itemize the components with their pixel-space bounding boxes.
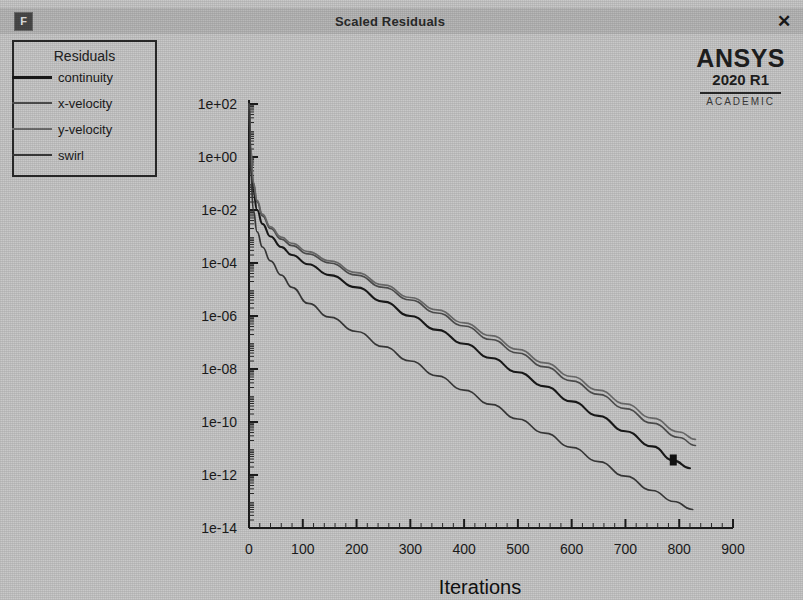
series-line-x-velocity: [249, 104, 695, 446]
continuity-end-marker: [670, 454, 677, 465]
y-tick-label: 1e-04: [201, 255, 237, 271]
x-tick-label: 700: [614, 541, 638, 557]
x-axis-ticks: [249, 519, 733, 528]
series-line-continuity: [249, 104, 690, 468]
y-tick-label: 1e-08: [201, 361, 237, 377]
x-tick-label: 200: [345, 541, 369, 557]
close-icon[interactable]: ✕: [767, 8, 801, 34]
y-tick-label: 1e+02: [198, 96, 238, 112]
x-tick-label: 800: [668, 541, 692, 557]
scaled-residuals-window: F Scaled Residuals ✕ Residuals continuit…: [0, 0, 803, 600]
x-tick-label: 300: [399, 541, 423, 557]
x-tick-labels: 0100200300400500600700800900: [245, 541, 745, 557]
y-tick-label: 1e-12: [201, 467, 237, 483]
x-tick-label: 100: [291, 541, 315, 557]
y-tick-label: 1e-02: [201, 202, 237, 218]
y-tick-label: 1e+00: [198, 149, 238, 165]
x-tick-label: 400: [452, 541, 476, 557]
window-title: Scaled Residuals: [13, 14, 767, 29]
x-tick-label: 600: [560, 541, 584, 557]
y-tick-labels: 1e+021e+001e-021e-041e-061e-081e-101e-12…: [198, 96, 238, 536]
y-tick-label: 1e-10: [201, 414, 237, 430]
x-tick-label: 900: [721, 541, 745, 557]
y-tick-label: 1e-14: [201, 520, 237, 536]
y-tick-label: 1e-06: [201, 308, 237, 324]
series-line-y-velocity: [249, 104, 695, 439]
series-line-swirl: [249, 104, 693, 510]
x-axis-title: Iterations: [439, 576, 521, 598]
plot-canvas: Residuals continuityx-velocityy-velocity…: [0, 34, 803, 600]
x-tick-label: 500: [506, 541, 530, 557]
window-titlebar: F Scaled Residuals ✕: [0, 8, 803, 34]
residuals-chart: 0100200300400500600700800900 1e+021e+001…: [0, 34, 803, 600]
chart-series-group: [249, 104, 695, 510]
x-tick-label: 0: [245, 541, 253, 557]
